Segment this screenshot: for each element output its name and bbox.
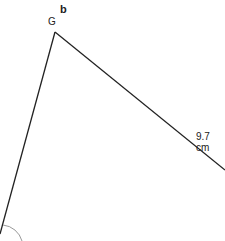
part-label: b [60,3,67,15]
vertex-label-g: G [48,16,56,27]
side-length-label: 9.7 cm [196,131,225,153]
triangle-figure [0,0,225,241]
side-left [0,32,55,234]
angle-arc [3,225,22,241]
triangle-diagram: b G 9.7 cm [0,0,225,241]
